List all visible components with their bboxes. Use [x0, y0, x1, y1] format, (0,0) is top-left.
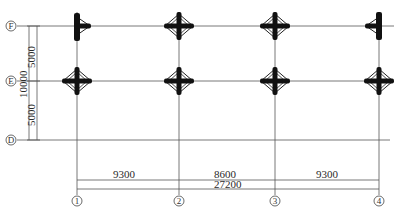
dim-vertical-segment-1: 5000 [25, 46, 37, 69]
svg-text:4: 4 [377, 196, 382, 206]
axis-bubble-2: 2 [174, 196, 184, 206]
column-E4-icon [364, 67, 394, 95]
svg-text:F: F [8, 21, 13, 31]
axis-bubble-F: F [6, 21, 16, 31]
svg-text:2: 2 [177, 196, 182, 206]
dim-horizontal-segment-3: 9300 [316, 168, 339, 180]
column-E3-icon [260, 67, 290, 95]
dim-horizontal-total: 27200 [214, 178, 242, 190]
dim-horizontal-segment-1: 9300 [113, 168, 136, 180]
svg-text:D: D [8, 135, 15, 145]
column-E1-icon [62, 67, 92, 95]
dim-vertical-total: 10000 [17, 70, 29, 98]
column-F1-icon [74, 13, 91, 41]
axis-bubble-E: E [6, 76, 16, 86]
axis-bubble-4: 4 [374, 196, 384, 206]
column-F4-icon [365, 12, 382, 40]
column-E2-icon [164, 67, 194, 95]
svg-text:1: 1 [75, 196, 80, 206]
svg-text:3: 3 [273, 196, 278, 206]
axis-bubble-D: D [6, 135, 16, 145]
grid-plan-drawing: 5000 5000 10000 9300 8600 9300 27200 F E… [0, 0, 399, 218]
column-F2-icon [164, 12, 194, 40]
axis-bubble-1: 1 [72, 196, 82, 206]
dim-vertical-segment-2: 5000 [25, 104, 37, 127]
column-F3-icon [260, 12, 290, 40]
axis-bubble-3: 3 [270, 196, 280, 206]
svg-text:E: E [8, 76, 14, 86]
